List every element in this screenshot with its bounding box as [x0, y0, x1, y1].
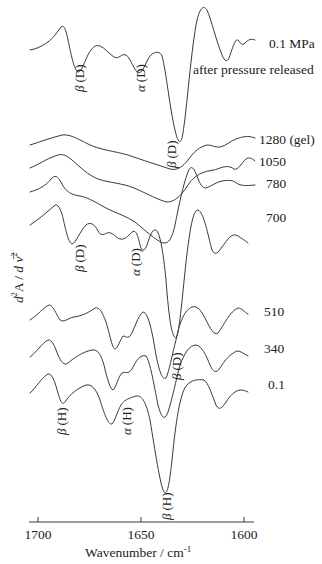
annotation-beta-d-700-left: β(D): [72, 244, 87, 273]
annotation-beta-h-bottom: β(H): [159, 492, 174, 521]
annotation-beta-d-700-right: β(D): [169, 352, 184, 381]
x-axis-title: Wavenumber / cm-1: [85, 544, 191, 560]
curve-1050: [30, 155, 255, 202]
svg-text:d2A / d ν̅2: d2A / d ν̅2: [10, 252, 26, 303]
svg-text:β(D): β(D): [72, 244, 87, 273]
y-axis-title: d2A / d ν̅2: [10, 252, 26, 303]
svg-text:α(D): α(D): [128, 248, 143, 276]
annotation-alpha-d-top: α(D): [133, 64, 148, 92]
series-label-after-release: after pressure released: [193, 62, 314, 77]
series-label-340: 340: [264, 341, 285, 356]
svg-text:α(H): α(H): [119, 407, 134, 435]
curve-780: [30, 168, 255, 243]
ftir-second-derivative-chart: β(D) α(D) β(D) β(D) α(D) β(D) β(H) α(H) …: [0, 0, 322, 564]
series-label-0-1: 0.1: [268, 377, 285, 392]
x-tick-label-1700: 1700: [25, 527, 52, 542]
annotation-alpha-d-700: α(D): [128, 248, 143, 276]
curve-1280-gel: [30, 135, 255, 170]
curve-340: [30, 340, 248, 417]
series-label-700: 700: [266, 210, 287, 225]
series-label-0-1mpa: 0.1 MPa: [269, 36, 315, 51]
annotation-beta-d-top-left: β(D): [72, 64, 87, 93]
annotation-alpha-h: α(H): [119, 407, 134, 435]
svg-text:β(D): β(D): [164, 140, 179, 169]
svg-text:β(H): β(H): [54, 407, 69, 436]
svg-text:β(H): β(H): [159, 492, 174, 521]
x-tick-label-1600: 1600: [231, 527, 258, 542]
svg-text:β(D): β(D): [169, 352, 184, 381]
series-label-780: 780: [266, 176, 287, 191]
x-tick-label-1650: 1650: [128, 527, 155, 542]
series-label-1280-gel: 1280 (gel): [259, 132, 315, 147]
annotation-beta-d-top-right: β(D): [164, 140, 179, 169]
curve-510: [30, 305, 248, 378]
series-label-510: 510: [264, 304, 285, 319]
svg-text:α(D): α(D): [133, 64, 148, 92]
series-label-1050: 1050: [259, 154, 286, 169]
svg-text:β(D): β(D): [72, 64, 87, 93]
annotation-beta-h-left: β(H): [54, 407, 69, 436]
